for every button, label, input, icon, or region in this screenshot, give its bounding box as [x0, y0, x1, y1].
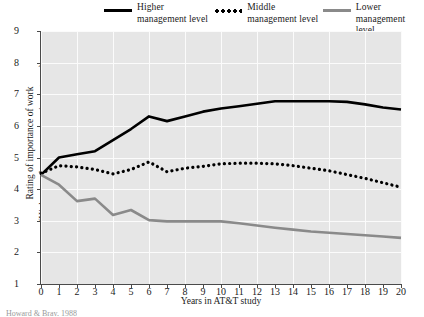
data-series-layer — [41, 31, 401, 284]
legend-label-higher-line1: Higher — [137, 2, 164, 12]
y-tick-label: 2 — [1, 247, 19, 257]
plot-area — [41, 31, 401, 284]
legend-label-middle-line1: Middle — [247, 2, 275, 12]
y-tick-label: 4 — [1, 184, 19, 194]
x-axis-title: Years in AT&T study — [41, 296, 401, 306]
source-note: Howard & Bray, 1988 — [6, 309, 77, 316]
y-tick-label: 7 — [1, 89, 19, 99]
legend-label-middle-line2: management level — [247, 14, 318, 24]
y-tick-mark — [37, 189, 41, 190]
y-tick-label: 1 — [1, 279, 19, 289]
y-tick-mark — [37, 94, 41, 95]
y-tick-mark — [37, 252, 41, 253]
legend-item-higher: Higher management level — [104, 2, 214, 25]
y-tick-mark — [37, 221, 41, 222]
legend-label-higher-line2: management level — [137, 14, 208, 24]
y-tick-label: 6 — [1, 121, 19, 131]
legend-label-lower-line1: Lower — [356, 2, 381, 12]
y-tick-label: 3 — [1, 216, 19, 226]
y-axis-title-line1: Rating of importance of work — [24, 28, 37, 258]
y-tick-mark — [37, 63, 41, 64]
chart-legend: Higher management level Middle managemen… — [104, 2, 422, 28]
legend-swatch-solid-black-icon — [104, 9, 132, 12]
gridline-vertical — [401, 31, 402, 284]
legend-swatch-solid-gray-icon — [323, 9, 351, 12]
legend-label-higher: Higher management level — [137, 2, 208, 25]
y-tick-label: 8 — [1, 58, 19, 68]
legend-label-middle: Middle management level — [247, 2, 318, 25]
y-tick-label: 9 — [1, 26, 19, 36]
y-tick-mark — [37, 158, 41, 159]
legend-item-middle: Middle management level — [214, 2, 322, 25]
y-tick-label: 5 — [1, 153, 19, 163]
series-line-higher — [41, 101, 401, 175]
y-tick-mark — [37, 31, 41, 32]
legend-swatch-dotted-icon — [214, 9, 242, 13]
y-tick-mark — [37, 126, 41, 127]
chart-root: Higher management level Middle managemen… — [0, 0, 424, 317]
series-line-middle — [41, 162, 401, 187]
series-line-lower — [41, 175, 401, 238]
